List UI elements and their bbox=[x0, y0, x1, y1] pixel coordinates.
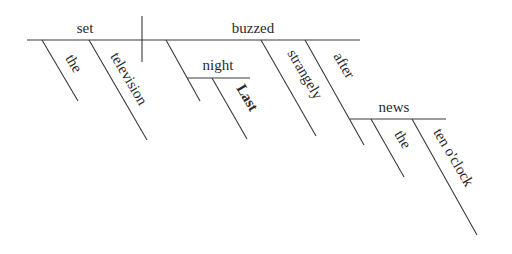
preposition-after: after bbox=[330, 49, 358, 81]
modifier-night: night bbox=[203, 57, 235, 73]
modifier-the-news: the bbox=[391, 127, 414, 151]
modifier-strangely: strangely bbox=[284, 46, 326, 102]
modifier-ten-oclock: ten o'clock bbox=[430, 125, 477, 189]
modifier-television: television bbox=[107, 49, 151, 108]
subject-word: set bbox=[77, 20, 94, 36]
sentence-diagram: set buzzed the television night Last str… bbox=[0, 0, 512, 254]
modifier-line-night-slant bbox=[166, 40, 200, 101]
verb-word: buzzed bbox=[232, 20, 275, 36]
modifier-last: Last bbox=[233, 81, 261, 114]
modifier-the: the bbox=[62, 51, 85, 75]
object-news: news bbox=[379, 99, 410, 115]
